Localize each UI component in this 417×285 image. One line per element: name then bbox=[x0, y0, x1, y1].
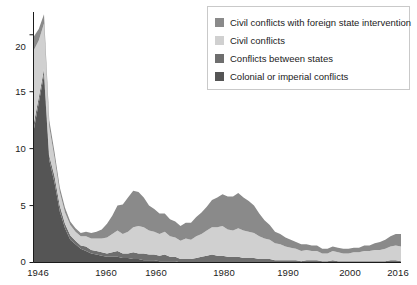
legend-swatch-civil-foreign-icon bbox=[215, 18, 224, 27]
legend-label-civil: Civil conflicts bbox=[230, 36, 285, 46]
legend-item-interstate[interactable]: Conflicts between states bbox=[215, 50, 403, 67]
conflicts-area-chart: 20 15 10 5 0 1946 1960 1960 1980 1990 20… bbox=[0, 0, 417, 285]
y-tick-label-20: 20 bbox=[4, 41, 26, 52]
x-tick-label-1960b: 1960 bbox=[145, 267, 167, 278]
legend-swatch-interstate-icon bbox=[215, 54, 224, 63]
legend-item-civil-foreign[interactable]: Civil conflicts with foreign state inter… bbox=[215, 14, 403, 31]
y-tick-label-15: 15 bbox=[4, 86, 26, 97]
x-tick-label-1960a: 1960 bbox=[95, 267, 117, 278]
legend-label-interstate: Conflicts between states bbox=[230, 54, 333, 64]
x-tick-label-2000: 2000 bbox=[339, 267, 361, 278]
legend-swatch-colonial-icon bbox=[215, 72, 224, 81]
y-tick-label-10: 10 bbox=[4, 143, 26, 154]
y-axis-ticks bbox=[30, 35, 34, 263]
x-tick-label-1980: 1980 bbox=[213, 267, 235, 278]
x-tick-label-1946: 1946 bbox=[27, 267, 49, 278]
legend-label-civil-foreign: Civil conflicts with foreign state inter… bbox=[230, 18, 411, 28]
y-tick-label-5: 5 bbox=[4, 200, 26, 211]
legend-item-civil[interactable]: Civil conflicts bbox=[215, 32, 403, 49]
legend-label-colonial: Colonial or imperial conflicts bbox=[230, 72, 348, 82]
x-tick-label-2016: 2016 bbox=[387, 267, 409, 278]
x-tick-label-1990: 1990 bbox=[277, 267, 299, 278]
legend-item-colonial[interactable]: Colonial or imperial conflicts bbox=[215, 68, 403, 85]
y-tick-label-0: 0 bbox=[4, 256, 26, 267]
chart-legend: Civil conflicts with foreign state inter… bbox=[207, 6, 410, 90]
legend-swatch-civil-icon bbox=[215, 36, 224, 45]
